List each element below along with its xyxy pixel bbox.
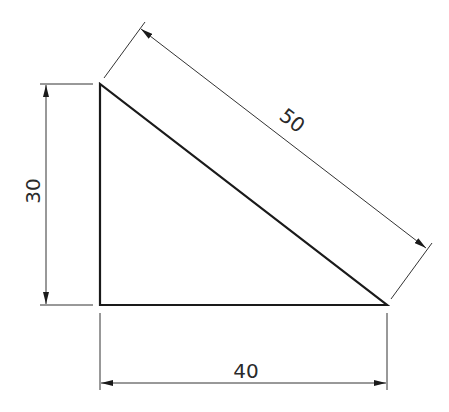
base-label: 40 (233, 359, 258, 383)
base-dimension: 40 (100, 313, 387, 390)
triangle-drawing: 30 40 50 (0, 0, 449, 412)
height-dimension: 30 (21, 84, 93, 305)
hypotenuse-label: 50 (275, 103, 310, 138)
hypotenuse-extension-bottom (391, 243, 432, 299)
height-label: 30 (21, 178, 45, 203)
hypotenuse-extension-top (104, 22, 145, 78)
hypotenuse-dimension-line (141, 29, 426, 248)
triangle-outline (100, 84, 387, 305)
hypotenuse-dimension: 50 (104, 22, 432, 299)
